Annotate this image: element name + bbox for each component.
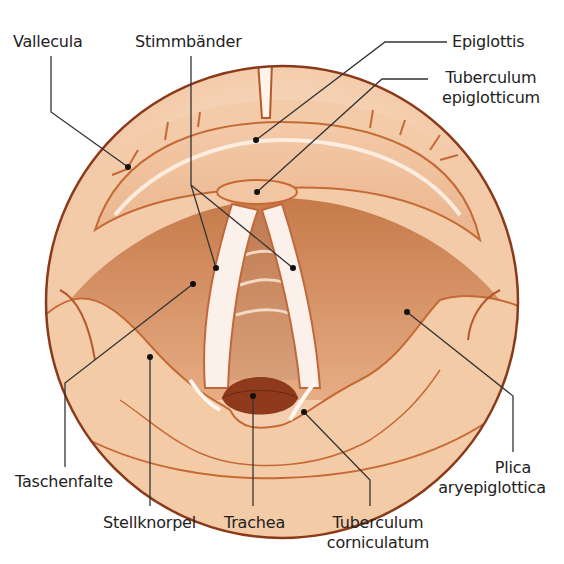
label-trachea: Trachea [224, 513, 285, 533]
label-text: Vallecula [13, 32, 83, 52]
label-epiglottis: Epiglottis [452, 32, 524, 52]
label-text: Taschenfalte [15, 472, 113, 492]
label-stimmbaender: Stimmbänder [135, 32, 242, 52]
label-text: Trachea [224, 513, 285, 533]
label-taschenfalte: Taschenfalte [15, 472, 113, 492]
larynx-diagram: Vallecula Stimmbänder Epiglottis Tubercu… [0, 0, 564, 564]
label-text: Stimmbänder [135, 32, 242, 52]
label-text: Epiglottis [452, 32, 524, 52]
label-tuberculum-corniculatum: Tuberculum corniculatum [318, 513, 438, 553]
label-text: Stellknorpel [103, 513, 196, 533]
label-plica-aryepiglottica: Plica aryepiglottica [425, 458, 559, 498]
label-text-line2: corniculatum [318, 533, 438, 553]
label-text-line1: Tuberculum [318, 513, 438, 533]
label-text-line1: Tuberculum [430, 68, 552, 88]
label-vallecula: Vallecula [13, 32, 83, 52]
label-text-line2: epiglotticum [430, 88, 552, 108]
label-text-line2: aryepiglottica [425, 478, 559, 498]
label-tuberculum-epiglotticum: Tuberculum epiglotticum [430, 68, 552, 108]
label-stellknorpel: Stellknorpel [103, 513, 196, 533]
label-text-line1: Plica [425, 458, 559, 478]
